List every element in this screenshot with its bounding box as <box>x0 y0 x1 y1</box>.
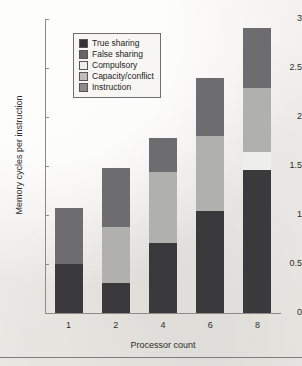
legend-item-label: Capacity/conflict <box>92 72 154 81</box>
y-axis-tick <box>45 68 49 69</box>
legend-swatch-icon <box>79 50 88 59</box>
legend-item: Compulsory <box>79 60 154 71</box>
legend-item: False sharing <box>79 49 154 60</box>
bar-segment <box>149 243 177 313</box>
bar-segment <box>196 78 224 136</box>
legend-swatch-icon <box>79 72 88 81</box>
y-axis-tick <box>45 215 49 216</box>
bar-segment <box>55 208 83 264</box>
bar-stack <box>196 78 224 313</box>
y-axis-tick <box>45 264 49 265</box>
bar-segment <box>196 136 224 211</box>
bar-segment <box>102 168 130 227</box>
y-axis-title: Memory cycles per instruction <box>14 80 24 230</box>
chart-figure: Memory cycles per instruction 00.511.522… <box>0 0 302 366</box>
x-axis-title: Processor count <box>45 340 281 350</box>
bar-segment <box>55 264 83 313</box>
x-axis-tick-label: 8 <box>237 320 277 330</box>
bar-segment <box>243 152 271 170</box>
legend-item: Capacity/conflict <box>79 71 154 82</box>
x-axis-tick-label: 1 <box>49 320 89 330</box>
bar-segment <box>243 88 271 153</box>
legend-item: Instruction <box>79 82 154 93</box>
bar-segment <box>102 227 130 283</box>
bar-segment <box>243 28 271 88</box>
bar-segment <box>149 138 177 172</box>
y-axis-tick <box>45 117 49 118</box>
bar-segment <box>149 172 177 244</box>
bar-stack <box>149 138 177 313</box>
legend-swatch-icon <box>79 83 88 92</box>
y-axis-tick-label: 3 <box>262 14 302 23</box>
bar-segment <box>102 283 130 313</box>
legend-item-label: True sharing <box>92 39 139 48</box>
y-axis-tick <box>45 19 49 20</box>
chart-legend: True sharingFalse sharingCompulsoryCapac… <box>73 33 161 98</box>
page-footer-rule <box>0 357 302 358</box>
legend-item: True sharing <box>79 38 154 49</box>
y-axis-tick <box>45 166 49 167</box>
x-axis-line <box>45 313 281 314</box>
x-axis-tick-label: 4 <box>143 320 183 330</box>
legend-item-label: False sharing <box>92 50 143 59</box>
bar-stack <box>243 28 271 313</box>
bar-stack <box>55 208 83 313</box>
legend-item-label: Compulsory <box>92 61 137 70</box>
legend-item-label: Instruction <box>92 83 131 92</box>
bar-segment <box>196 211 224 313</box>
x-axis-tick-label: 2 <box>96 320 136 330</box>
bar-stack <box>102 168 130 313</box>
legend-swatch-icon <box>79 39 88 48</box>
x-axis-tick-label: 6 <box>190 320 230 330</box>
legend-swatch-icon <box>79 61 88 70</box>
bar-segment <box>243 170 271 313</box>
